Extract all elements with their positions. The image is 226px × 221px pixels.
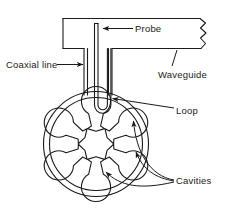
loop-leader-line <box>113 99 175 109</box>
cavity-4 <box>81 157 110 202</box>
label-cavities: Cavities <box>176 176 211 186</box>
waveguide-leader-line <box>172 50 177 66</box>
cavity-group <box>39 87 153 202</box>
cavities-leader-lines <box>106 121 174 186</box>
magnetron-outer-body <box>44 92 149 197</box>
label-probe: Probe <box>135 24 161 34</box>
label-loop: Loop <box>176 106 198 116</box>
anode-block-circle <box>50 98 143 191</box>
waveguide-body <box>63 19 201 49</box>
diagram-canvas: Probe Coaxial line Waveguide Loop Caviti… <box>0 0 226 221</box>
waveguide-break-symbol <box>200 19 206 49</box>
label-coaxial-line: Coaxial line <box>6 60 58 70</box>
label-waveguide: Waveguide <box>158 70 207 80</box>
